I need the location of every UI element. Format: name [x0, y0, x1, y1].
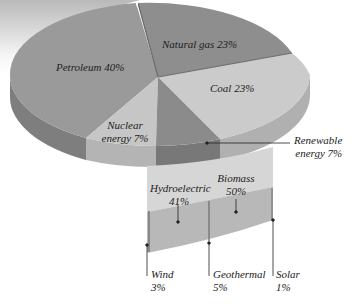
- label-solar-line1: Solar: [276, 268, 300, 281]
- label-geothermal-line2: 5%: [213, 281, 266, 294]
- label-renewable: Renewable energy 7%: [294, 134, 342, 160]
- label-hydro-line2: 41%: [150, 195, 208, 208]
- label-coal: Coal 23%: [210, 82, 254, 95]
- label-geothermal: Geothermal 5%: [213, 268, 266, 294]
- label-biomass-line2: 50%: [214, 185, 258, 198]
- label-nuclear-line1: Nuclear: [100, 119, 150, 132]
- label-wind: Wind 3%: [151, 268, 174, 294]
- label-biomass-line1: Biomass: [214, 172, 258, 185]
- label-renewable-line1: Renewable: [294, 134, 342, 147]
- label-geothermal-line1: Geothermal: [213, 268, 266, 281]
- label-nuclear-line2: energy 7%: [100, 132, 150, 145]
- label-solar-line2: 1%: [276, 281, 300, 294]
- label-wind-line1: Wind: [151, 268, 174, 281]
- label-natural-gas: Natural gas 23%: [162, 38, 237, 51]
- label-hydroelectric: Hydroelectric 41%: [150, 182, 208, 208]
- label-wind-line2: 3%: [151, 281, 174, 294]
- label-renewable-line2: energy 7%: [294, 147, 342, 160]
- label-petroleum: Petroleum 40%: [56, 61, 124, 74]
- label-hydro-line1: Hydroelectric: [150, 182, 208, 195]
- label-solar: Solar 1%: [276, 268, 300, 294]
- label-nuclear: Nuclear energy 7%: [100, 119, 150, 145]
- label-biomass: Biomass 50%: [214, 172, 258, 198]
